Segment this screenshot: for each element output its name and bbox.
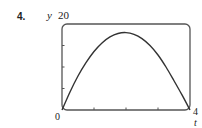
plot-area	[0, 0, 202, 128]
viewing-window-frame	[62, 24, 190, 110]
function-curve	[62, 33, 190, 110]
